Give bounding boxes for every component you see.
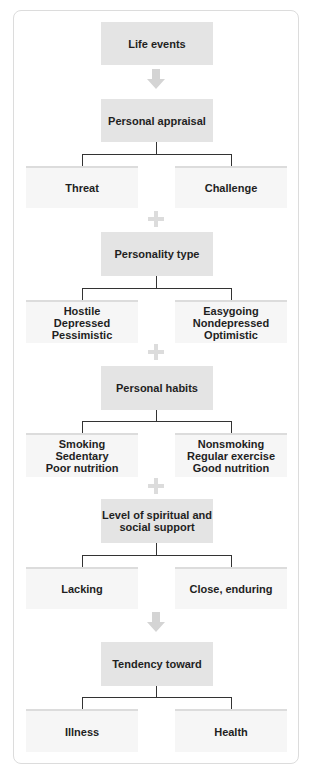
connector-stem: [156, 276, 157, 288]
connector-right: [231, 154, 232, 166]
option-hostile-depressed-pessimistic: Hostile Depressed Pessimistic: [26, 300, 138, 343]
option-nonsmoking-exercise-good-nutrition: Nonsmoking Regular exercise Good nutriti…: [175, 433, 287, 477]
connector-stem: [156, 686, 157, 697]
connector-left: [82, 697, 83, 709]
connector-branch: [82, 697, 232, 698]
connector-left: [82, 154, 83, 166]
down-arrow-icon: [147, 69, 165, 89]
connector-left: [82, 421, 83, 433]
option-threat: Threat: [26, 166, 138, 208]
option-close-enduring: Close, enduring: [175, 567, 287, 609]
plus-icon: [148, 478, 164, 494]
connector-left: [82, 288, 83, 300]
box-personal-habits: Personal habits: [101, 366, 213, 410]
box-spiritual-social-support: Level of spiritual and social support: [101, 499, 213, 543]
down-arrow-icon: [147, 612, 165, 632]
connector-branch: [82, 555, 232, 556]
box-personality-type: Personality type: [101, 232, 213, 276]
box-personal-appraisal: Personal appraisal: [101, 99, 213, 142]
connector-left: [82, 555, 83, 567]
box-tendency-toward: Tendency toward: [101, 642, 213, 686]
option-health: Health: [175, 709, 287, 752]
connector-right: [231, 555, 232, 567]
connector-branch: [82, 421, 232, 422]
plus-icon: [148, 344, 164, 360]
plus-icon: [148, 211, 164, 227]
connector-stem: [156, 410, 157, 421]
option-illness: Illness: [26, 709, 138, 752]
option-easygoing-nondepressed-optimistic: Easygoing Nondepressed Optimistic: [175, 300, 287, 343]
connector-right: [231, 288, 232, 300]
option-smoking-sedentary-poor-nutrition: Smoking Sedentary Poor nutrition: [26, 433, 138, 477]
connector-right: [231, 697, 232, 709]
connector-branch: [82, 288, 232, 289]
box-life-events: Life events: [101, 22, 213, 65]
option-challenge: Challenge: [175, 166, 287, 208]
connector-right: [231, 421, 232, 433]
connector-stem: [156, 142, 157, 154]
connector-branch: [82, 154, 232, 155]
connector-stem: [156, 543, 157, 555]
option-lacking: Lacking: [26, 567, 138, 609]
